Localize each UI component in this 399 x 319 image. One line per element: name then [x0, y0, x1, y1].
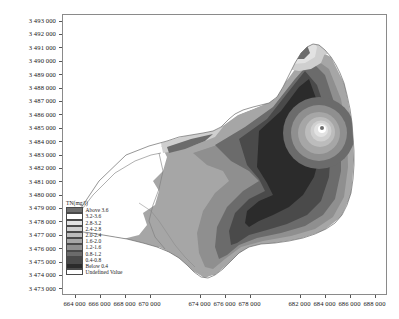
legend-item: Undefined Value [66, 269, 132, 275]
contour-map-figure: 3 473 0003 474 0003 475 0003 476 0003 47… [0, 0, 399, 319]
x-axis-tick-mark [300, 295, 301, 298]
x-axis-tick-label: 686 000 [338, 300, 360, 308]
x-axis-tick-mark [350, 295, 351, 298]
x-axis-tick-mark [375, 295, 376, 298]
x-axis-tick-mark [75, 295, 76, 298]
x-axis-tick-label: 664 000 [63, 300, 85, 308]
legend-rows: Above 3.63.2-3.62.8-3.22.4-2.82.0-2.41.6… [66, 207, 132, 275]
x-axis-tick-label: 688 000 [363, 300, 385, 308]
x-axis-tick-label: 682 000 [288, 300, 310, 308]
x-axis-tick-mark [225, 295, 226, 298]
x-axis-tick-label: 670 000 [138, 300, 160, 308]
legend-swatch [66, 269, 83, 275]
x-axis-tick-label: 684 000 [313, 300, 335, 308]
x-axis-tick-label: 674 000 [188, 300, 210, 308]
x-axis-tick-mark [200, 295, 201, 298]
x-axis-tick-mark [325, 295, 326, 298]
x-axis-tick-mark [250, 295, 251, 298]
x-axis-tick-mark [150, 295, 151, 298]
bullseye-feature [283, 97, 355, 169]
legend-title: TN(mg/l) [66, 200, 132, 206]
x-axis-tick-label: 666 000 [88, 300, 110, 308]
x-axis-tick-label: 668 000 [113, 300, 135, 308]
legend-label: Undefined Value [86, 269, 123, 275]
x-axis-tick-mark [100, 295, 101, 298]
map-legend: TN(mg/l) Above 3.63.2-3.62.8-3.22.4-2.82… [66, 200, 132, 275]
x-axis-tick-label: 678 000 [238, 300, 260, 308]
x-axis-tick-mark [125, 295, 126, 298]
x-axis-tick-label: 676 000 [213, 300, 235, 308]
